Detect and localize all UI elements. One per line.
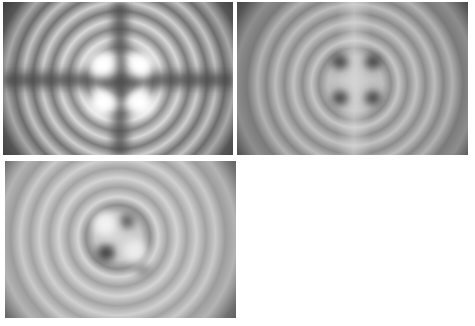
interference-pattern-panel-3 xyxy=(5,161,236,318)
empty-area xyxy=(240,160,475,326)
interference-pattern-panel-1 xyxy=(3,2,233,155)
fringe-image-2 xyxy=(237,2,468,155)
fringe-image-3 xyxy=(5,161,236,318)
fringe-image-1 xyxy=(3,2,233,155)
interference-pattern-panel-2 xyxy=(237,2,468,155)
